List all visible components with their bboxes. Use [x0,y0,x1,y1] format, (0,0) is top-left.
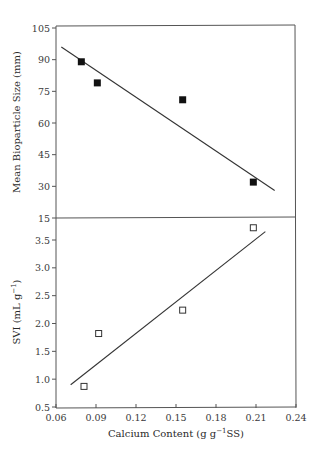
trendline [71,232,266,385]
x-tick-label: 0.21 [245,412,266,423]
x-tick-label: 0.18 [205,412,226,423]
data-point-open-square [250,225,256,231]
data-point-open-square [180,307,186,313]
y-tick-label: 3.5 [35,235,50,246]
y-tick-label: 0.5 [35,402,50,413]
y-tick-label: 75 [38,86,50,97]
y-tick-label: 1.5 [35,346,50,357]
x-tick-label: 0.24 [285,412,306,423]
bottom-y-ticks: 3.53.02.52.01.51.00.5 [35,235,56,413]
y-tick-label: 105 [32,23,50,34]
data-point-open-square [81,383,87,389]
top-panel-data [61,47,274,191]
panel-divider [56,217,295,218]
x-axis-title: Calcium Content (g g−1SS) [108,427,244,439]
y-tick-label: 1.0 [35,374,50,385]
right-border [295,25,296,407]
data-point-filled-square [250,179,257,186]
x-tick-label: 0.12 [125,412,146,423]
x-tick-label: 0.06 [45,412,66,423]
data-point-filled-square [179,96,186,103]
data-point-open-square [96,331,102,337]
top-border [56,25,295,26]
trendline [61,47,274,191]
data-point-filled-square [78,58,85,65]
top-y-ticks: 105907560453015 [32,23,56,224]
plot-frame [56,25,296,408]
y-tick-label: 30 [38,181,50,192]
y-tick-label: 2.5 [35,290,50,301]
y-tick-label: 15 [38,213,50,224]
top-y-axis-title: Mean Bioparticle Size (mm) [11,51,22,193]
bottom-y-axis-title: SVI (mL g−1) [10,279,22,344]
x-tick-label: 0.15 [165,412,186,423]
y-tick-label: 45 [38,149,50,160]
y-tick-label: 60 [38,118,50,129]
data-point-filled-square [94,79,101,86]
y-tick-label: 90 [38,54,50,65]
y-tick-label: 3.0 [35,262,50,273]
x-tick-label: 0.09 [85,412,106,423]
y-tick-label: 2.0 [35,318,50,329]
chart-figure: 105907560453015 3.53.02.52.01.51.00.5 0.… [0,0,319,457]
bottom-panel-data [71,225,266,390]
